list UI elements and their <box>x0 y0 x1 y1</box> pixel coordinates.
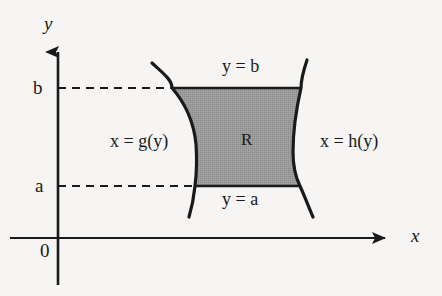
bottom-edge-label: y = a <box>222 190 258 208</box>
left-boundary-label: x = g(y) <box>110 132 168 150</box>
y-tick-label-a: a <box>35 176 43 195</box>
right-boundary-curve <box>293 60 313 217</box>
y-axis-label: y <box>44 14 52 33</box>
shaded-region <box>172 88 301 186</box>
right-boundary-label: x = h(y) <box>320 132 378 150</box>
x-axis-label: x <box>411 226 419 245</box>
top-edge-label: y = b <box>222 57 259 75</box>
origin-label: 0 <box>40 241 50 260</box>
y-tick-label-b: b <box>33 78 43 97</box>
region-label: R <box>241 131 252 148</box>
figure-canvas: y x 0 b a x = g(y) x = h(y) y = b y = a … <box>0 0 442 296</box>
